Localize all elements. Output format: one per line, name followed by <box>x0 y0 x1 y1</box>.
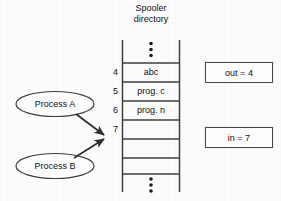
table-cell-value-6: prog. n <box>122 105 180 115</box>
process-b-label: Process B <box>15 161 95 171</box>
row-index-4: 4 <box>104 67 118 77</box>
table-cell-value-4: abc <box>122 67 180 77</box>
table-cell-value-5: prog. c <box>122 86 180 96</box>
vertical-ellipsis-bottom-icon <box>149 177 153 193</box>
row-index-7: 7 <box>104 124 118 134</box>
process-a-label: Process A <box>15 99 95 109</box>
spooler-directory-diagram: Spooler directory <box>0 0 281 201</box>
variable-box-in: in = 7 <box>205 127 273 148</box>
variable-box-out: out = 4 <box>205 62 273 83</box>
row-index-6: 6 <box>104 105 118 115</box>
arrow-process-b-to-slot-7 <box>74 139 104 158</box>
arrow-process-a-to-slot-7 <box>76 114 104 135</box>
vertical-ellipsis-top-icon <box>149 42 153 58</box>
row-index-5: 5 <box>104 86 118 96</box>
spooler-table-row-lines <box>122 63 180 174</box>
